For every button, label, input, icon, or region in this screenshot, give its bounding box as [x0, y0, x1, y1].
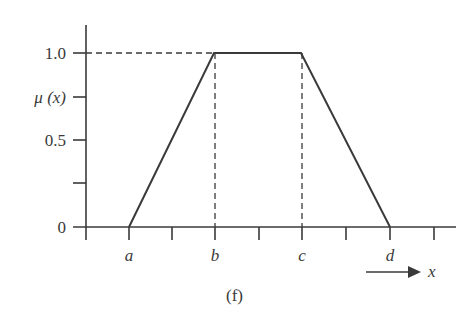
x-axis-label: x: [428, 263, 436, 280]
x-tick-label-c: c: [292, 247, 312, 264]
y-axis-label: μ (x): [6, 89, 66, 106]
x-tick-label-b: b: [205, 247, 225, 264]
x-tick-label-a: a: [119, 247, 139, 264]
chart-canvas: [0, 0, 473, 324]
y-tick-label-1.0: 1.0: [6, 45, 66, 62]
x-tick-label-d: d: [380, 247, 400, 264]
trapezoidal-membership-figure: 1.0 μ (x) 0.5 0 a b c d x (f): [0, 0, 473, 324]
membership-trapezoid: [129, 53, 390, 227]
y-tick-label-0: 0: [6, 219, 66, 236]
figure-caption: (f): [226, 287, 243, 304]
y-tick-label-0.5: 0.5: [6, 132, 66, 149]
x-direction-arrow-head: [408, 266, 421, 278]
